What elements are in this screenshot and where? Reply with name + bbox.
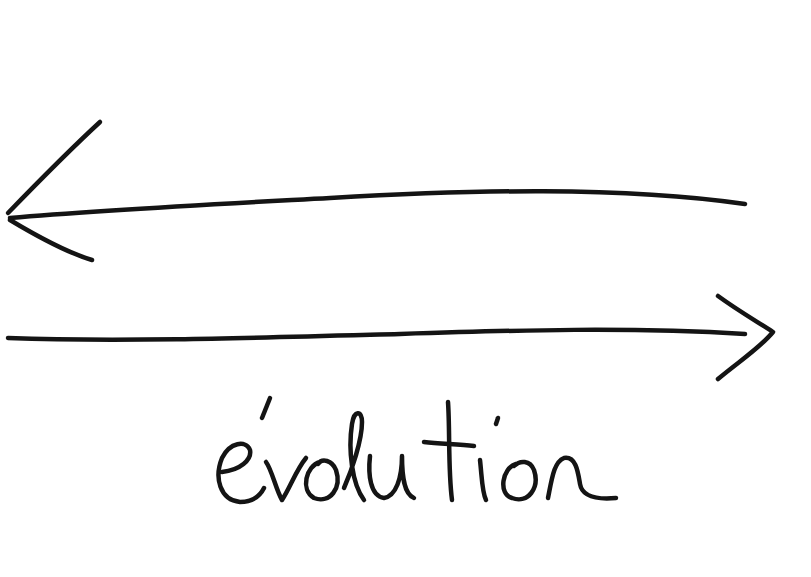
left-arrow-shaft bbox=[10, 191, 745, 218]
left-arrowhead-upper bbox=[8, 122, 100, 213]
diagram-canvas: évolution bbox=[0, 0, 811, 577]
right-arrow bbox=[8, 296, 773, 379]
evolution-label: évolution bbox=[205, 385, 625, 515]
right-arrow-shaft bbox=[8, 330, 745, 340]
left-arrowhead-lower bbox=[10, 220, 92, 260]
left-arrow bbox=[8, 122, 745, 260]
right-arrowhead bbox=[718, 296, 773, 379]
